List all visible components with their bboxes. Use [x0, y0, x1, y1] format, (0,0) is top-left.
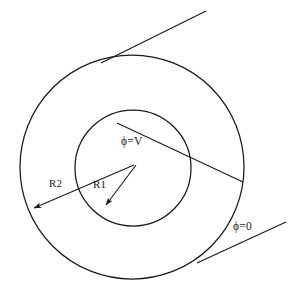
inner-circle-r1	[75, 110, 191, 226]
slit-inner-edge-line	[117, 123, 243, 182]
inner-potential-label: ϕ=V	[121, 136, 142, 148]
annulus-cross-section-figure	[0, 0, 291, 296]
inner-radius-label: R1	[93, 179, 106, 190]
outer-potential-label: ϕ=0	[233, 221, 252, 233]
diagram-canvas: ϕ=V ϕ=0 R2 R1	[0, 0, 291, 296]
slit-upper-tangent-line	[101, 11, 206, 63]
outer-radius-label: R2	[49, 178, 62, 189]
